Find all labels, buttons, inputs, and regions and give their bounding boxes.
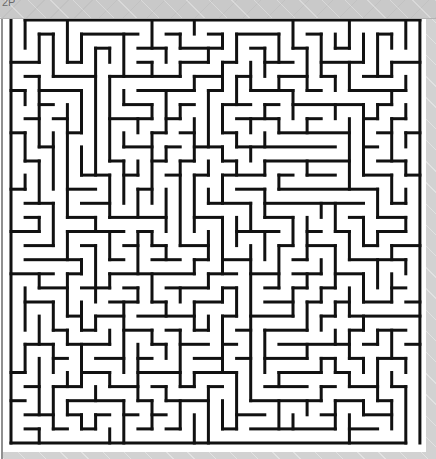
maze-wall-segment	[334, 399, 365, 402]
maze-wall-segment	[320, 286, 323, 303]
maze-wall-segment	[108, 230, 111, 261]
maze-wall-segment	[277, 371, 322, 374]
maze-wall-segment	[277, 117, 280, 134]
maze-wall-segment	[207, 202, 252, 205]
maze-wall-segment	[404, 216, 407, 233]
maze-wall-segment	[207, 272, 210, 289]
maze-wall-segment	[221, 145, 224, 162]
maze-wall-segment	[94, 315, 97, 332]
maze-wall-segment	[348, 413, 351, 444]
maze-wall-segment	[221, 315, 224, 374]
maze-wall-segment	[179, 47, 224, 50]
maze-wall-segment	[390, 33, 393, 50]
maze-wall-segment	[292, 216, 295, 247]
maze-wall-segment	[277, 75, 280, 92]
maze-wall-segment	[334, 75, 337, 92]
window-titlebar: 2P	[0, 0, 436, 19]
maze-wall-segment	[320, 385, 323, 402]
maze-wall-segment	[390, 399, 393, 430]
maze-wall-segment	[122, 89, 125, 106]
maze-wall-segment	[292, 19, 295, 50]
maze-wall-segment	[179, 61, 210, 64]
maze-wall-segment	[376, 230, 407, 233]
maze-wall-segment	[165, 385, 168, 402]
maze-wall-segment	[277, 244, 280, 289]
maze-wall-segment	[193, 19, 196, 36]
maze-wall-segment	[334, 301, 337, 318]
maze-wall-segment	[165, 47, 168, 64]
maze-wall-segment	[390, 61, 393, 78]
maze-wall-segment	[334, 399, 337, 430]
maze-wall-segment	[80, 33, 83, 64]
maze-wall-segment	[122, 103, 153, 106]
maze-wall-segment	[207, 385, 210, 444]
maze-wall-segment	[362, 174, 393, 177]
maze-wall-segment	[80, 33, 139, 36]
maze-wall-segment	[348, 315, 422, 318]
maze-wall-segment	[165, 399, 210, 402]
maze-wall-segment	[66, 272, 69, 317]
maze-wall-segment	[249, 117, 252, 134]
maze-wall-segment	[362, 413, 393, 416]
maze-wall-segment	[263, 188, 266, 219]
maze-wall-segment	[390, 244, 421, 247]
maze-wall-segment	[277, 399, 280, 430]
maze-wall-segment	[292, 413, 295, 430]
maze-wall-segment	[390, 371, 393, 388]
maze-wall-segment	[193, 301, 224, 304]
maze-grid[interactable]	[3, 19, 436, 459]
maze-wall-segment	[193, 117, 196, 162]
maze-wall-segment	[179, 343, 210, 346]
maze-wall-segment	[249, 202, 252, 233]
maze-wall-segment	[376, 216, 407, 219]
maze-wall-segment	[136, 188, 139, 219]
maze-wall-segment	[362, 301, 393, 304]
maze-wall-segment	[348, 230, 351, 261]
maze-wall-segment	[122, 329, 153, 332]
maze-wall-segment	[179, 61, 182, 78]
maze-wall-segment	[249, 399, 323, 402]
maze-wall-segment	[179, 33, 182, 50]
maze-wall-segment	[320, 202, 323, 219]
maze-wall-segment	[334, 357, 337, 374]
maze-wall-segment	[24, 19, 422, 22]
maze-wall-segment	[24, 286, 27, 331]
maze-wall-segment	[376, 329, 379, 346]
maze-wall-segment	[207, 47, 210, 64]
maze-wall-segment	[404, 19, 407, 50]
maze-wall-segment	[306, 301, 309, 332]
maze-wall-segment	[179, 286, 182, 303]
window-bottom-border	[3, 452, 436, 459]
maze-wall-segment	[390, 174, 393, 205]
maze-wall-segment	[277, 343, 351, 346]
maze-wall-segment	[151, 19, 154, 50]
maze-wall-segment	[235, 413, 266, 416]
maze-wall-segment	[404, 160, 407, 177]
maze-wall-segment	[80, 258, 83, 275]
maze-wall-segment	[94, 385, 97, 402]
maze-wall-segment	[334, 33, 337, 50]
maze-wall-segment	[151, 61, 154, 78]
maze-wall-segment	[10, 61, 41, 64]
maze-wall-segment	[179, 160, 182, 248]
maze-wall-segment	[66, 230, 69, 261]
maze-wall-segment	[24, 343, 27, 374]
maze-wall-segment	[376, 230, 379, 247]
maze-wall-segment	[404, 357, 407, 374]
maze-wall-segment	[108, 75, 111, 163]
maze-wall-segment	[376, 258, 379, 289]
maze-wall-segment	[136, 286, 139, 303]
maze-wall-segment	[193, 371, 196, 388]
maze-wall-segment	[334, 329, 337, 346]
maze-canvas[interactable]	[3, 19, 436, 459]
maze-wall-segment	[249, 89, 294, 92]
maze-wall-segment	[38, 427, 41, 444]
maze-wall-segment	[292, 89, 295, 120]
maze-wall-segment	[38, 315, 41, 346]
maze-wall-segment	[165, 244, 168, 261]
maze-wall-segment	[108, 329, 111, 346]
maze-wall-segment	[249, 61, 252, 92]
maze-wall-segment	[193, 216, 224, 219]
maze-wall-segment	[122, 33, 125, 78]
maze-wall-segment	[193, 75, 196, 92]
